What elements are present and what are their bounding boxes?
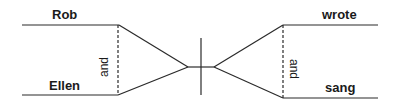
predicate-fork-top [214,25,283,67]
predicate-conjunction: and [287,59,301,79]
predicate-fork-bottom [214,67,283,98]
subject-word-ellen: Ellen [49,78,80,93]
verb-word-sang: sang [325,80,355,95]
verb-word-wrote: wrote [321,7,357,22]
subject-conjunction: and [97,57,111,77]
sentence-diagram: Rob Ellen wrote sang and and [0,0,400,107]
subject-fork-bottom [118,67,188,95]
subject-word-rob: Rob [52,7,77,22]
subject-fork-top [119,25,188,67]
